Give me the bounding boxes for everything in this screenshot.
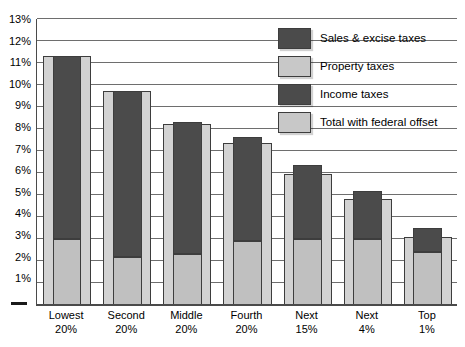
legend-label: Income taxes [320,88,388,100]
y-tick-6: 6% [3,165,31,176]
legend-item: Total with federal offset [278,110,437,134]
legend-swatch-icon [278,56,311,77]
x-axis-label-line1: Second [96,308,156,322]
legend-label: Total with federal offset [320,116,437,128]
x-axis-label-line2: 15% [277,322,337,336]
bar-group [37,19,97,305]
x-axis-label-line1: Top [397,308,457,322]
y-axis-zero-tick [11,302,27,305]
x-axis-label-line1: Middle [156,308,216,322]
x-axis-label: Second20% [96,308,156,336]
bar-stack [233,137,262,305]
x-axis-label-line2: 20% [156,322,216,336]
y-tick-11: 11% [3,57,31,68]
y-tick-13: 13% [3,14,31,25]
bar-stack [293,165,322,305]
bar-stack [353,191,382,305]
x-axis-label-line1: Next [277,308,337,322]
legend-swatch-icon [278,84,311,105]
legend-item: Property taxes [278,54,394,78]
bar-segment-sales-excise-taxes [113,91,142,257]
bar-segment-property-taxes [353,239,382,305]
bar-segment-sales-excise-taxes [173,122,202,254]
x-axis-label-line1: Next [337,308,397,322]
bar-segment-property-taxes [173,254,202,305]
x-axis-label: Top1% [397,308,457,336]
y-tick-8: 8% [3,122,31,133]
y-tick-5: 5% [3,187,31,198]
bar-group [217,19,277,305]
x-axis-label-line1: Fourth [216,308,276,322]
legend-swatch-icon [278,112,311,133]
x-axis: Lowest20%Second20%Middle20%Fourth20%Next… [36,308,457,346]
bar-stack [173,122,202,305]
y-tick-1: 1% [3,273,31,284]
bar-segment-property-taxes [53,239,82,305]
bar-stack [113,91,142,306]
x-axis-label-line2: 20% [96,322,156,336]
x-axis-label-line1: Lowest [36,308,96,322]
x-axis-label: Fourth20% [216,308,276,336]
x-axis-label: Middle20% [156,308,216,336]
x-axis-label-line2: 4% [337,322,397,336]
bar-stack [413,228,442,305]
y-tick-3: 3% [3,230,31,241]
x-axis-label-line2: 20% [36,322,96,336]
bar-segment-property-taxes [233,241,262,305]
tax-burden-bar-chart: 13% 12% 11% 10% 9% 8% 7% 6% 5% 4% 3% 2% … [0,0,465,347]
y-tick-2: 2% [3,252,31,263]
x-axis-label: Next4% [337,308,397,336]
bar-segment-property-taxes [293,239,322,305]
legend-item: Income taxes [278,82,388,106]
legend-label: Sales & excise taxes [320,32,426,44]
legend-swatch-icon [278,28,311,49]
bar-stack [53,56,82,305]
y-axis: 13% 12% 11% 10% 9% 8% 7% 6% 5% 4% 3% 2% … [0,0,31,347]
y-tick-12: 12% [3,36,31,47]
x-axis-label-line2: 1% [397,322,457,336]
x-axis-label: Lowest20% [36,308,96,336]
y-tick-7: 7% [3,144,31,155]
bar-segment-sales-excise-taxes [53,56,82,239]
x-axis-line [36,304,457,306]
y-tick-10: 10% [3,79,31,90]
bar-group [157,19,217,305]
y-tick-4: 4% [3,208,31,219]
x-axis-label-line2: 20% [216,322,276,336]
bar-segment-sales-excise-taxes [233,137,262,242]
chart-legend: Sales & excise taxesProperty taxesIncome… [278,26,458,138]
legend-item: Sales & excise taxes [278,26,426,50]
bar-segment-sales-excise-taxes [293,165,322,239]
bar-segment-sales-excise-taxes [413,228,442,252]
legend-label: Property taxes [320,60,394,72]
bar-group [97,19,157,305]
x-axis-label: Next15% [277,308,337,336]
bar-segment-property-taxes [113,257,142,305]
bar-segment-sales-excise-taxes [353,191,382,239]
y-tick-9: 9% [3,100,31,111]
bar-segment-property-taxes [413,252,442,305]
